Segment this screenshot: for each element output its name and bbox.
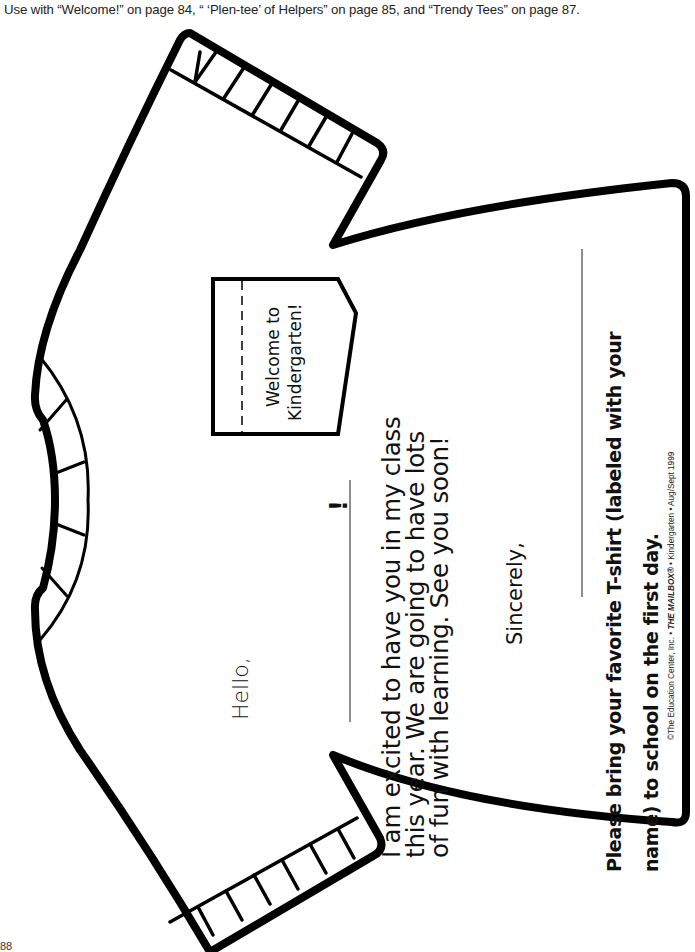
page-number: 88 [0, 940, 12, 952]
tag-text: Welcome to Kindergarten! [262, 304, 306, 422]
instruction-note: Please bring your favorite T-shirt (labe… [596, 332, 670, 872]
instruction-line-1: Please bring your favorite T-shirt (labe… [596, 332, 633, 872]
copyright-suffix: • Kindergarten • Aug/Sept 1999 [667, 452, 676, 567]
name-blank-exclamation: ! [325, 500, 353, 511]
tag-line-2: Kindergarten! [284, 304, 306, 422]
copyright-line: ©The Education Center, Inc. • THE MAILBO… [667, 452, 676, 740]
letter-body-line-3: of fun with learning. See you soon! [428, 416, 452, 858]
top-sleeve-ribs [195, 52, 353, 162]
greeting: Hello, [228, 657, 253, 720]
shirt-body-outline [35, 33, 686, 952]
collar-rib-arc [40, 357, 88, 640]
copyright-prefix: ©The Education Center, Inc. • [667, 630, 676, 740]
instruction-line-2: name) to school on the first day. [633, 332, 670, 872]
closing: Sincerely, [503, 542, 527, 645]
tag-line-1: Welcome to [262, 304, 284, 422]
top-sleeve-cuff-line [171, 70, 361, 177]
letter-body: I am excited to have you in my class thi… [380, 416, 452, 858]
tshirt-outline [0, 0, 695, 952]
copyright-publication: THE MAILBOX® [667, 567, 676, 629]
